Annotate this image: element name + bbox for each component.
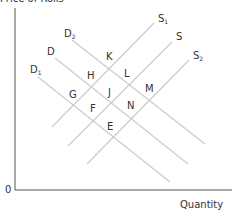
origin-label: 0 bbox=[5, 184, 11, 195]
label-d2: D2 bbox=[64, 28, 76, 40]
label-d1: D1 bbox=[30, 64, 42, 76]
demand-curve-d2 bbox=[72, 40, 205, 144]
point-l: L bbox=[124, 68, 130, 79]
supply-demand-chart: S1 S S2 D2 D D1 K H L G J M F N E 0 Quan… bbox=[0, 0, 234, 218]
label-s: S bbox=[176, 31, 182, 42]
point-n: N bbox=[127, 100, 134, 111]
x-axis-title: Quantity bbox=[180, 199, 223, 210]
demand-curve-d bbox=[55, 58, 188, 164]
point-g: G bbox=[69, 89, 77, 100]
label-s2: S2 bbox=[193, 50, 203, 62]
label-s1: S1 bbox=[158, 13, 168, 25]
point-e: E bbox=[107, 121, 113, 132]
point-h: H bbox=[87, 70, 95, 81]
point-f: F bbox=[90, 103, 96, 114]
label-d: D bbox=[47, 46, 55, 57]
point-k: K bbox=[106, 51, 113, 62]
point-j: J bbox=[107, 87, 111, 98]
point-m: M bbox=[145, 83, 154, 94]
